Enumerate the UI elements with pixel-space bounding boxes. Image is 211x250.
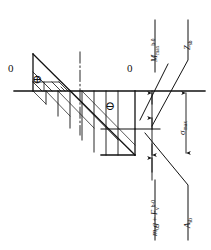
sigma-subscript: max (182, 121, 188, 130)
plus-sign-icon: ⊕ (32, 73, 42, 85)
moment-leader-pointer (140, 64, 168, 120)
force-subscript: v (154, 207, 160, 210)
plus-operator: + (149, 215, 159, 223)
figure-canvas: 0 0 ⊕ ⊖ Mmaxb-0 Zsb σmax m0g+Fvb-0 Asb (0, 0, 211, 250)
section-modulus-symbol: Z (182, 45, 192, 50)
sigma-max-label: σmax (178, 121, 188, 135)
mass-symbol: m (149, 230, 159, 236)
stress-gradient-line (33, 54, 135, 155)
mass-subscript: 0 (154, 227, 160, 230)
section-modulus-label: Zsb (183, 40, 193, 50)
area-subscript: sb (187, 218, 193, 223)
negative-diag-line (33, 91, 46, 104)
minus-sign-icon: ⊖ (105, 100, 115, 112)
section-modulus-leader-line (152, 20, 188, 126)
sigma-symbol: σ (177, 130, 187, 135)
moment-max-label: Mmaxb-0 (150, 39, 160, 63)
zero-label-left: 0 (8, 63, 14, 74)
moment-superscript: b-0 (150, 39, 156, 46)
area-symbol: A (182, 223, 192, 228)
moment-subscript: max (154, 46, 160, 55)
section-modulus-subscript: sb (187, 40, 193, 45)
gravity-symbol: g (149, 223, 159, 227)
force-superscript: b-0 (150, 200, 156, 207)
area-label: Asb (183, 218, 193, 228)
force-symbol: F (149, 210, 159, 215)
positive-hatch-line (52, 82, 61, 91)
axial-load-label: m0g+Fvb-0 (150, 200, 160, 236)
zero-label-right: 0 (127, 63, 133, 74)
moment-symbol: M (149, 55, 159, 62)
